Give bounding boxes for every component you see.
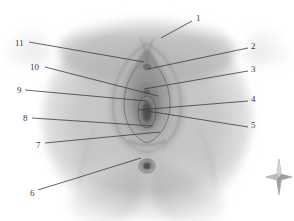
callout-5-line xyxy=(147,111,248,127)
callout-8-label: 8 xyxy=(23,114,28,123)
callout-9-line xyxy=(25,90,147,101)
callout-5-label: 5 xyxy=(251,121,256,130)
callout-1-line xyxy=(161,21,192,38)
callout-6-line xyxy=(38,158,141,190)
callout-1-label: 1 xyxy=(196,14,201,23)
callout-4-label: 4 xyxy=(251,95,256,104)
callout-2-label: 2 xyxy=(251,42,256,51)
callout-11-label: 11 xyxy=(15,39,24,48)
callout-11-line xyxy=(29,42,144,62)
callout-6-label: 6 xyxy=(30,189,35,198)
callout-8-line xyxy=(32,118,153,126)
callout-9-label: 9 xyxy=(17,86,22,95)
callout-10-label: 10 xyxy=(30,63,39,72)
figure-page: 1234567891011 xyxy=(0,0,294,221)
callout-3-line xyxy=(144,71,248,89)
leader-line-group xyxy=(25,21,248,190)
callout-leader-lines xyxy=(0,0,294,221)
callout-4-line xyxy=(138,101,248,110)
callout-2-line xyxy=(148,48,248,69)
four-pointed-star-icon xyxy=(265,158,293,196)
callout-10-line xyxy=(45,67,158,96)
callout-7-label: 7 xyxy=(36,141,41,150)
star-west-highlight xyxy=(266,174,279,180)
callout-3-label: 3 xyxy=(251,65,256,74)
callout-7-line xyxy=(45,132,160,143)
